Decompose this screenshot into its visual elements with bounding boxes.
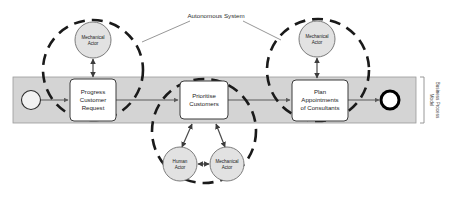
diagram-canvas: Business Process Model <box>0 0 449 203</box>
annotation-autonomous-system-label: Autonomous System <box>187 12 244 19</box>
leader-line-right <box>243 21 281 40</box>
assoc-human-middle-task2 <box>182 124 192 147</box>
actor-human-middle[interactable]: Human Actor <box>163 147 197 181</box>
task-progress-customer-request-label-line2: Customer <box>80 96 106 103</box>
actor-mechanical-middle[interactable]: Mechanical Actor <box>210 147 244 181</box>
start-event[interactable] <box>22 91 41 110</box>
actor-human-middle-shape[interactable] <box>163 147 197 181</box>
actor-mechanical-left-label-line1: Mechanical <box>81 35 104 40</box>
task-prioritise-customers[interactable]: Prioritise Customers <box>180 81 228 119</box>
actor-mechanical-right[interactable]: Mechanical Actor <box>299 21 335 57</box>
annotation-autonomous-system: Autonomous System <box>142 12 281 42</box>
actor-mechanical-left-label-line2: Actor <box>88 41 99 46</box>
task-progress-customer-request-label-line1: Progress <box>81 88 105 95</box>
task-plan-appointments[interactable]: Plan Appointments of Consultants <box>292 80 348 121</box>
task-plan-appointments-label-line1: Plan <box>314 88 326 95</box>
leader-line-left <box>142 21 190 42</box>
actor-mechanical-middle-shape[interactable] <box>210 147 244 181</box>
task-prioritise-customers-label-line2: Customers <box>189 100 218 107</box>
actor-mechanical-middle-label-line1: Mechanical <box>215 159 238 164</box>
actor-mechanical-right-shape[interactable] <box>299 21 335 57</box>
actor-mechanical-left[interactable]: Mechanical Actor <box>75 22 111 58</box>
start-event-shape[interactable] <box>22 91 41 110</box>
task-plan-appointments-label-line3: of Consultants <box>301 104 340 111</box>
task-prioritise-customers-label-line1: Prioritise <box>192 92 216 99</box>
pool-label-line1: Business Process <box>435 82 440 119</box>
task-progress-customer-request-label-line3: Request <box>82 104 105 111</box>
pool-label-line2: Model <box>429 94 434 107</box>
end-event[interactable] <box>381 91 399 109</box>
pool-bracket-group: Business Process Model <box>420 77 440 123</box>
pool-bracket <box>420 77 424 123</box>
actor-human-middle-label-line2: Actor <box>175 165 186 170</box>
actor-mechanical-middle-label-line2: Actor <box>222 165 233 170</box>
assoc-mechanical-middle-task2 <box>216 124 225 147</box>
actor-mechanical-left-shape[interactable] <box>75 22 111 58</box>
end-event-shape[interactable] <box>381 91 399 109</box>
pool-label-group: Business Process Model <box>429 82 440 119</box>
bpmn-diagram: Business Process Model <box>0 0 449 203</box>
task-plan-appointments-label-line2: Appointments <box>301 96 338 103</box>
actor-mechanical-right-label-line1: Mechanical <box>305 34 328 39</box>
task-progress-customer-request[interactable]: Progress Customer Request <box>70 79 116 121</box>
actor-mechanical-right-label-line2: Actor <box>312 40 323 45</box>
actor-human-middle-label-line1: Human <box>173 159 188 164</box>
